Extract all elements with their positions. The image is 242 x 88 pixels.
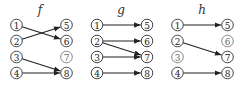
node-label: 7: [64, 53, 70, 63]
edge-2-to-7: [103, 43, 141, 55]
node-1: 1: [91, 19, 103, 31]
node-5: 5: [222, 19, 234, 31]
node-label: 2: [94, 37, 100, 47]
edge-2-to-7: [183, 43, 221, 55]
node-label: 3: [94, 53, 100, 63]
node-1: 1: [172, 19, 184, 31]
node-label: 3: [14, 53, 20, 63]
node-7: 7: [141, 51, 153, 63]
node-8: 8: [141, 67, 153, 79]
node-label: 2: [14, 37, 20, 47]
node-5: 5: [61, 19, 73, 31]
node-label: 5: [144, 21, 150, 31]
node-3: 3: [11, 51, 23, 63]
node-4: 4: [91, 67, 103, 79]
node-7: 7: [61, 51, 73, 63]
node-label: 5: [225, 21, 231, 31]
mapping-diagrams: f12345678g12345678h12345678: [0, 0, 242, 88]
diagram-h: h12345678: [172, 3, 234, 79]
node-label: 5: [64, 21, 70, 31]
node-2: 2: [172, 35, 184, 47]
node-label: 1: [175, 21, 181, 31]
node-label: 4: [14, 69, 20, 79]
node-3: 3: [172, 51, 184, 63]
node-2: 2: [11, 35, 23, 47]
node-8: 8: [61, 67, 73, 79]
edge-3-to-8: [22, 59, 60, 71]
node-label: 4: [175, 69, 181, 79]
node-label: 1: [94, 21, 100, 31]
node-label: 7: [225, 53, 231, 63]
diagram-g: g12345678: [91, 3, 153, 79]
node-6: 6: [222, 35, 234, 47]
node-label: 8: [64, 69, 70, 79]
node-label: 6: [144, 37, 150, 47]
node-5: 5: [141, 19, 153, 31]
node-label: 7: [144, 53, 150, 63]
node-3: 3: [91, 51, 103, 63]
node-label: 6: [64, 37, 70, 47]
node-1: 1: [11, 19, 23, 31]
node-label: 4: [94, 69, 100, 79]
node-7: 7: [222, 51, 234, 63]
node-6: 6: [141, 35, 153, 47]
node-label: 6: [225, 37, 231, 47]
diagram-title: f: [37, 3, 45, 17]
node-label: 3: [175, 53, 181, 63]
node-2: 2: [91, 35, 103, 47]
node-label: 2: [175, 37, 181, 47]
node-8: 8: [222, 67, 234, 79]
node-4: 4: [172, 67, 184, 79]
diagram-title: g: [117, 3, 125, 17]
node-label: 8: [144, 69, 150, 79]
node-label: 1: [14, 21, 20, 31]
node-4: 4: [11, 67, 23, 79]
node-6: 6: [61, 35, 73, 47]
node-label: 8: [225, 69, 231, 79]
diagram-f: f12345678: [11, 3, 73, 79]
diagram-title: h: [198, 3, 206, 17]
